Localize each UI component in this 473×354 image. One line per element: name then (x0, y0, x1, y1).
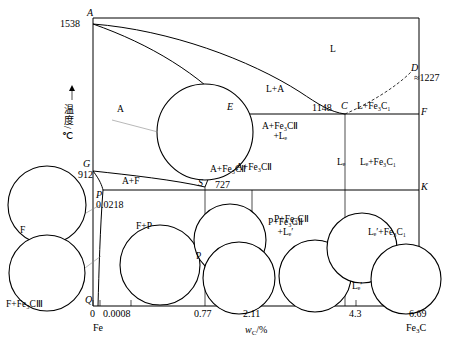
x-axis-right-end-tail: C (420, 322, 427, 333)
region-Ld: Lₑ (337, 158, 345, 168)
region-A-Fe3CII-Ld-line2: +Lₑ (273, 131, 287, 141)
micrograph-ferrite-pearlite-ring (120, 225, 200, 305)
phase-diagram-figure: 温度/℃ A D C F E G S P K Q 1538 ≈1227 1148… (0, 0, 473, 354)
diagram-canvas (0, 0, 473, 354)
x-tick-0.0008: 0.0008 (103, 309, 131, 319)
temp-1538: 1538 (60, 19, 80, 29)
y-axis-arrow (69, 85, 75, 100)
point-C: C (341, 101, 348, 111)
caption-ferrite-cem3: F+Fe₃CⅢ (6, 300, 43, 310)
point-S: S (198, 178, 203, 188)
region-A-F: A+F (122, 177, 140, 187)
temp-1227: ≈1227 (414, 73, 440, 83)
region-Ld-Fe3CI: Lₑ+Fe₃C₁ (360, 158, 396, 168)
caption-p-cem2-ld-line2: +Lₑ′ (278, 227, 294, 237)
point-G: G (83, 159, 90, 169)
region-L-A: L+A (266, 85, 284, 95)
x-tick-0.77: 0.77 (194, 309, 212, 319)
y-axis-label: 温度/℃ (62, 104, 72, 142)
temp-912: 912 (78, 170, 93, 180)
x-axis-right-end: Fe3C (406, 323, 426, 335)
x-axis-label-main: w (245, 324, 252, 335)
caption-ledeburite: Lₑ′ (352, 282, 362, 292)
caption-ferrite-pearlite: F+P (136, 222, 152, 232)
caption-ferrite: F (20, 226, 25, 236)
x-tick-4.3: 4.3 (349, 309, 362, 319)
region-A: A (117, 105, 124, 115)
region-A-Fe3CII-Ld: A+Fe₃CⅡ +Lₑ (262, 122, 298, 141)
region-A-Fe3CII-Ld-line1: A+Fe₃CⅡ (262, 121, 298, 131)
caption-pearlite: P (196, 252, 201, 262)
GP-curve (93, 171, 103, 190)
x-tick-2.11: 2.11 (243, 309, 260, 319)
value-P-0.0218: 0.0218 (96, 200, 124, 210)
temp-727: 727 (215, 180, 230, 190)
x-axis-left-end: Fe (93, 323, 103, 333)
caption-p-cem2-ld: P+Fe₃CⅡ +Lₑ′ (268, 218, 303, 237)
region-A-Fe3CII-lower: A+Fe₃CⅡ (236, 163, 272, 173)
x-axis-label: wC/% (245, 325, 267, 337)
micrograph-ld-cementite1-ring (371, 244, 441, 314)
temp-1148: 1148 (312, 103, 332, 113)
point-E: E (227, 102, 233, 112)
point-F: F (421, 107, 427, 117)
x-axis-label-unit: /% (256, 324, 267, 335)
caption-ld-cem1: Lₑ′+Fe₃C₁ (368, 228, 406, 238)
region-L: L (330, 45, 336, 55)
point-Q: Q (85, 295, 92, 305)
point-K: K (421, 182, 428, 192)
caption-p-cem2-ld-line1: P+Fe₃CⅡ (268, 217, 303, 227)
x-tick-6.69: 6.69 (409, 309, 427, 319)
point-A: A (87, 8, 93, 18)
region-L-Fe3CI: L+Fe₃C₁ (357, 102, 391, 112)
x-axis-right-end-main: Fe (406, 322, 416, 333)
x-tick-0: 0 (90, 309, 95, 319)
micrograph-pearlite-cementite2-ring (203, 242, 275, 314)
